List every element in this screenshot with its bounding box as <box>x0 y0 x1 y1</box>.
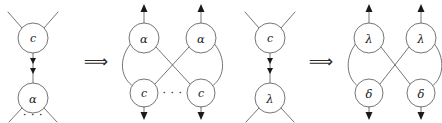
implication-arrow-1: ⟹ <box>84 51 108 71</box>
arrowhead-down-1 <box>30 58 36 64</box>
edge-alpha-right-to-c-right <box>214 44 223 85</box>
edge-lambda-left-to-delta-left <box>348 44 356 85</box>
arrowhead-down-2 <box>30 68 36 74</box>
edge-alpha-left-to-c-left <box>122 44 131 85</box>
arrowhead-down-right <box>198 112 205 120</box>
node-lambda-label: λ <box>265 92 273 106</box>
free-leg-top-right <box>44 12 58 28</box>
free-leg-top-right-2 <box>281 12 295 28</box>
free-leg-bottom-left <box>9 108 22 122</box>
node-alpha-label: α <box>29 92 37 106</box>
panel-rule1-lhs: c α · · · <box>8 12 58 122</box>
implication-arrow-2: ⟹ <box>309 51 333 71</box>
ellipsis-under-alpha: · · · <box>23 109 43 122</box>
panel-rule1-rhs: α α c c · · · <box>122 4 222 120</box>
panel-rule2-lhs: c λ <box>245 12 295 122</box>
arrowhead-up-left <box>141 4 148 12</box>
node-alpha-left-label: α <box>140 32 148 46</box>
free-leg-top-left-2 <box>245 12 259 28</box>
edge-alpha-right-to-c-left <box>155 47 189 84</box>
node-lambda-left-label: λ <box>364 32 372 46</box>
free-leg-bottom-left-2 <box>246 108 259 122</box>
arrowhead-down-3 <box>267 58 273 64</box>
arrowhead-down-right-2 <box>418 112 425 120</box>
panel-rule2-rhs: λ λ δ δ <box>348 4 442 120</box>
arrowhead-down-left <box>141 112 148 120</box>
ellipsis-between-c-nodes: · · · <box>163 87 183 100</box>
edge-lambda-right-to-delta-left <box>380 47 409 84</box>
edge-alpha-left-to-c-right <box>156 47 190 84</box>
node-c-left-label: c <box>141 87 147 100</box>
node-lambda-right-label: λ <box>416 32 424 46</box>
free-leg-top-left <box>8 12 22 28</box>
edge-lambda-right-to-delta-right <box>434 44 442 85</box>
interaction-net-rewrite-figure: c α · · · ⟹ α α c c · · · <box>0 0 442 123</box>
arrowhead-up-right-2 <box>418 4 425 12</box>
node-c-label: c <box>30 32 36 45</box>
node-alpha-right-label: α <box>197 32 205 46</box>
node-delta-right-label: δ <box>418 87 425 101</box>
figure-canvas: c α · · · ⟹ α α c c · · · <box>0 0 442 123</box>
arrowhead-up-right <box>198 4 205 12</box>
arrowhead-down-4 <box>267 68 273 74</box>
edge-lambda-left-to-delta-right <box>381 47 410 84</box>
arrowhead-up-left-2 <box>366 4 373 12</box>
free-leg-bottom-right <box>44 108 57 122</box>
node-c-right-label: c <box>198 87 204 100</box>
node-c-2-label: c <box>267 32 273 45</box>
free-leg-bottom-right-2 <box>281 108 294 122</box>
arrowhead-down-left-2 <box>366 112 373 120</box>
node-delta-left-label: δ <box>366 87 373 101</box>
